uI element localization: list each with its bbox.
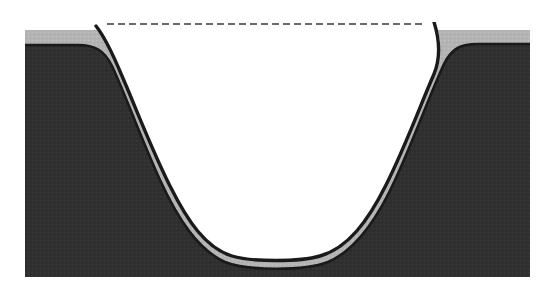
figure-root: Cross-section of an etched trench with c… [0,0,537,296]
cross-section-svg [0,0,537,296]
